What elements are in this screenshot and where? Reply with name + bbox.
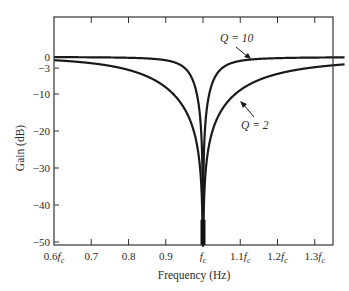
annotation-q2: Q = 2: [241, 119, 269, 131]
y-tick-label: −10: [33, 88, 51, 100]
x-tick-label: 0.9: [159, 250, 173, 262]
series-curves: [54, 57, 345, 246]
notch-filter-chart: 0−3−10−20−30−40−50 0.6fc0.70.80.9fc1.1fc…: [0, 0, 349, 291]
x-tick-label: fc: [200, 250, 207, 265]
series-line-q2: [54, 60, 345, 246]
x-tick-label: 0.6fc: [44, 250, 65, 265]
y-tick-label: −20: [33, 125, 51, 137]
x-tick-label: 1.3fc: [305, 250, 326, 265]
x-axis-ticks: 0.6fc0.70.80.9fc1.1fc1.2fc1.3fc: [44, 17, 326, 265]
x-tick-label: 0.8: [122, 250, 136, 262]
annotation-q10: Q = 10: [220, 32, 254, 44]
x-tick-label: 1.2fc: [267, 250, 288, 265]
y-tick-label: −30: [33, 162, 51, 174]
y-axis-label: Gain (dB): [14, 125, 27, 171]
y-tick-label: −40: [33, 199, 51, 211]
x-tick-label: 0.7: [84, 250, 98, 262]
y-tick-label: −3: [38, 62, 50, 74]
series-line-q10: [54, 57, 345, 246]
y-tick-label: −50: [33, 236, 51, 248]
notch-bottom-mark: [201, 220, 206, 245]
y-axis-ticks: 0−3−10−20−30−40−50: [33, 51, 59, 248]
x-tick-label: 1.1fc: [230, 250, 251, 265]
x-axis-label: Frequency (Hz): [158, 269, 231, 282]
